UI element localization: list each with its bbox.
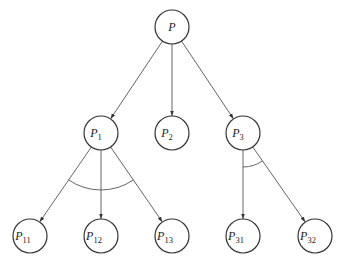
node-p12: P12 xyxy=(84,219,118,253)
node-label: P xyxy=(167,20,176,34)
node-p1: P1 xyxy=(84,116,118,150)
edge-p-p3 xyxy=(182,41,234,119)
and-or-tree-diagram: PP1P2P3P11P12P13P31P32 xyxy=(0,0,343,265)
edge-p3-p32 xyxy=(253,147,306,222)
node-p11: P11 xyxy=(13,219,47,253)
node-p2: P2 xyxy=(155,116,189,150)
and-arcs xyxy=(69,161,263,190)
node-p: P xyxy=(155,10,189,44)
nodes: PP1P2P3P11P12P13P31P32 xyxy=(13,10,332,253)
node-p3: P3 xyxy=(226,116,260,150)
edge-p-p1 xyxy=(111,41,163,119)
node-p13: P13 xyxy=(155,219,189,253)
edge-p1-p13 xyxy=(111,147,163,222)
node-p32: P32 xyxy=(298,219,332,253)
node-p31: P31 xyxy=(226,219,260,253)
edge-p1-p11 xyxy=(40,147,92,222)
and-arc-p3 xyxy=(243,161,263,167)
